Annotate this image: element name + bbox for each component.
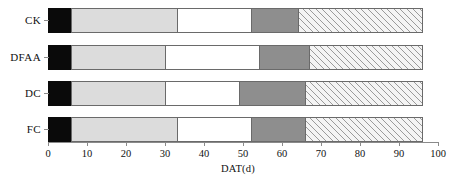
bar-row: CK bbox=[48, 8, 438, 33]
x-tick bbox=[282, 142, 283, 146]
bar-segment-stage-2 bbox=[71, 45, 166, 70]
bar-segment-stage-5 bbox=[305, 81, 423, 106]
stacked-bar-dfaa bbox=[48, 45, 438, 70]
bar-segment-stage-4 bbox=[259, 45, 311, 70]
y-axis-tick bbox=[44, 93, 49, 94]
x-tick-label: 80 bbox=[355, 148, 366, 159]
x-tick-label: 70 bbox=[316, 148, 327, 159]
plot-area: CKDFAADCFC bbox=[48, 8, 438, 142]
bar-row: DFAA bbox=[48, 45, 438, 70]
x-tick bbox=[204, 142, 205, 146]
bar-segment-stage-1 bbox=[48, 45, 72, 70]
stacked-bar-dc bbox=[48, 81, 438, 106]
x-tick-label: 100 bbox=[430, 148, 446, 159]
category-label-dfaa: DFAA bbox=[10, 45, 48, 70]
bar-segment-stage-5 bbox=[309, 45, 423, 70]
stacked-bar-chart: CKDFAADCFC 0102030405060708090100 DAT(d) bbox=[0, 0, 476, 184]
x-tick bbox=[165, 142, 166, 146]
bar-segment-stage-1 bbox=[48, 117, 72, 142]
bar-segment-stage-3 bbox=[177, 8, 252, 33]
bar-segment-stage-4 bbox=[251, 117, 307, 142]
bar-segment-stage-2 bbox=[71, 117, 177, 142]
y-axis-tick bbox=[44, 57, 49, 58]
bar-segment-stage-4 bbox=[251, 8, 299, 33]
x-tick-label: 20 bbox=[121, 148, 132, 159]
x-tick bbox=[87, 142, 88, 146]
x-tick bbox=[438, 142, 439, 146]
y-axis-tick bbox=[44, 129, 49, 130]
x-tick-label: 60 bbox=[277, 148, 288, 159]
x-tick bbox=[126, 142, 127, 146]
x-tick-label: 30 bbox=[160, 148, 171, 159]
x-tick bbox=[360, 142, 361, 146]
stacked-bar-fc bbox=[48, 117, 438, 142]
bar-segment-stage-1 bbox=[48, 8, 72, 33]
x-tick bbox=[321, 142, 322, 146]
x-tick-label: 0 bbox=[45, 148, 50, 159]
bar-segment-stage-3 bbox=[165, 81, 240, 106]
x-axis-title: DAT(d) bbox=[0, 163, 476, 174]
x-tick-label: 50 bbox=[238, 148, 249, 159]
x-tick bbox=[399, 142, 400, 146]
bar-row: FC bbox=[48, 117, 438, 142]
bar-segment-stage-4 bbox=[239, 81, 306, 106]
bar-segment-stage-3 bbox=[177, 117, 252, 142]
x-tick-label: 10 bbox=[82, 148, 93, 159]
stacked-bar-ck bbox=[48, 8, 438, 33]
x-tick bbox=[243, 142, 244, 146]
bar-segment-stage-5 bbox=[305, 117, 423, 142]
x-tick bbox=[48, 142, 49, 146]
bar-segment-stage-3 bbox=[165, 45, 260, 70]
y-axis-tick bbox=[44, 20, 49, 21]
bar-segment-stage-2 bbox=[71, 81, 166, 106]
bar-segment-stage-2 bbox=[71, 8, 177, 33]
bar-segment-stage-1 bbox=[48, 81, 72, 106]
bar-row: DC bbox=[48, 81, 438, 106]
x-tick-label: 90 bbox=[394, 148, 405, 159]
x-tick-label: 40 bbox=[199, 148, 210, 159]
bar-segment-stage-5 bbox=[298, 8, 424, 33]
